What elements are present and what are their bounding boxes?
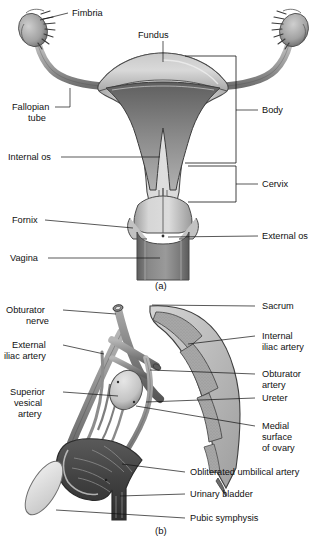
urinary-bladder (56, 439, 142, 520)
label-medial-surface-of-ovary-line1: Medial (262, 421, 289, 431)
label-sacrum: Sacrum (262, 301, 294, 311)
label-obturator-nerve-line1: Obturator (6, 305, 45, 315)
left-fallopian-tube (38, 44, 100, 86)
label-obturator-artery-line1: Obturator (262, 369, 301, 379)
label-obturator-artery-line2: artery (262, 380, 286, 390)
label-external-iliac-artery-line1: External (12, 340, 46, 350)
cervix (128, 196, 199, 239)
label-superior-vesical-artery-line3: artery (18, 409, 42, 419)
label-cervix: Cervix (262, 179, 288, 189)
label-fimbria: Fimbria (72, 8, 104, 18)
label-fallopian-tube-line1: Fallopian (12, 102, 49, 112)
label-internal-iliac-artery-line2: iliac artery (262, 342, 304, 352)
label-urinary-bladder: Urinary bladder (190, 489, 253, 499)
label-external-os: External os (262, 231, 308, 241)
right-fimbria (272, 9, 313, 51)
label-obturator-nerve-line2: nerve (26, 316, 49, 326)
label-fundus: Fundus (138, 30, 169, 40)
label-internal-os: Internal os (8, 152, 51, 162)
label-fornix: Fornix (12, 215, 38, 225)
label-superior-vesical-artery-line2: vesical (14, 398, 42, 408)
caption-figure-b: (b) (155, 525, 167, 536)
label-superior-vesical-artery-line1: Superior (10, 387, 45, 397)
label-external-iliac-artery-line2: iliac artery (4, 351, 46, 361)
label-medial-surface-of-ovary-line2: surface (262, 432, 292, 442)
cervix-bracket (188, 166, 236, 202)
label-ureter: Ureter (262, 393, 288, 403)
label-obliterated-umbilical-artery: Obliterated umbilical artery (190, 467, 300, 477)
figure-b-pelvic-sidewall-diagram: Obturator nerve External iliac artery Su… (0, 292, 327, 537)
label-body: Body (262, 105, 283, 115)
label-vagina: Vagina (10, 253, 39, 263)
figure-a-uterus-diagram: Fimbria Fundus Fallopian tube Internal o… (0, 0, 327, 292)
label-internal-iliac-artery-line1: Internal (262, 331, 293, 341)
left-fimbria (14, 9, 55, 51)
caption-figure-a: (a) (155, 280, 167, 291)
label-pubic-symphysis: Pubic symphysis (190, 513, 259, 523)
label-fallopian-tube-line2: tube (28, 113, 46, 123)
label-medial-surface-of-ovary-line3: of ovary (262, 443, 295, 453)
